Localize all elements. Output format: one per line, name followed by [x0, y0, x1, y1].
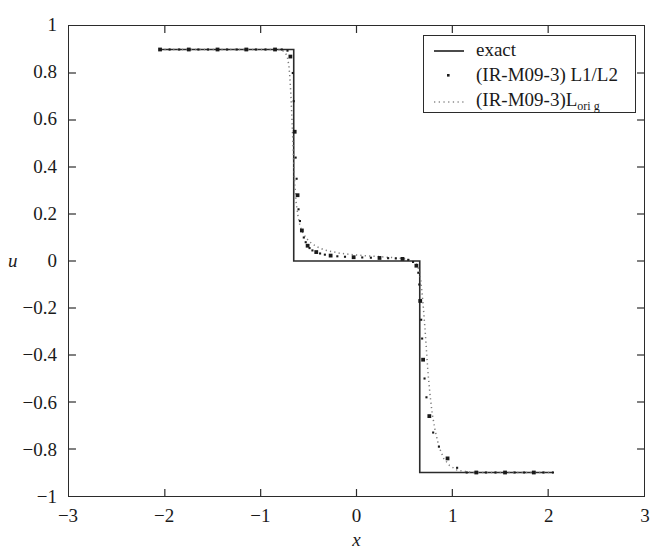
dot-marker-sample-icon [431, 62, 473, 88]
data-point-marker [281, 48, 283, 50]
x-tick-label: 3 [615, 506, 667, 525]
data-point-marker [552, 471, 554, 473]
data-point-marker [474, 471, 478, 475]
data-point-marker [292, 72, 294, 74]
data-point-marker [542, 471, 544, 473]
data-point-marker [169, 48, 171, 50]
legend-label-lorig-base: (IR-M09-3)L [476, 89, 577, 110]
data-point-marker [432, 432, 434, 434]
legend-entry-lorig: (IR-M09-3)Lori g [424, 87, 635, 113]
data-point-marker [361, 256, 363, 258]
data-point-marker [532, 471, 536, 475]
data-point-marker [421, 338, 423, 340]
data-point-marker [207, 48, 209, 50]
data-point-marker [414, 264, 418, 268]
y-tick-label: −0.6 [0, 393, 57, 412]
x-tick-label: 0 [327, 506, 387, 525]
x-tick-label: −3 [38, 506, 98, 525]
legend-entry-exact: exact [424, 37, 635, 63]
data-point-marker [305, 241, 307, 243]
x-tick-label: −2 [134, 506, 194, 525]
data-point-marker [314, 250, 318, 254]
legend-label-l1l2: (IR-M09-3) L1/L2 [476, 62, 618, 88]
data-point-marker [236, 48, 238, 50]
legend-label-exact: exact [476, 37, 516, 63]
data-point-marker [438, 446, 440, 448]
dotted-line-sample-icon [431, 87, 473, 113]
data-point-marker [423, 377, 425, 379]
data-point-marker [387, 257, 389, 259]
data-point-marker [295, 157, 297, 159]
data-point-marker [421, 358, 425, 362]
data-point-marker [485, 471, 487, 473]
data-point-marker [296, 178, 298, 180]
data-point-marker [255, 48, 257, 50]
y-axis-title: u [8, 251, 18, 270]
solid-line-sample-icon [431, 37, 473, 63]
data-point-marker [425, 396, 427, 398]
data-point-marker [395, 257, 397, 259]
x-tick-label: 2 [519, 506, 579, 525]
data-point-marker [456, 467, 458, 469]
data-point-marker [427, 414, 431, 418]
data-point-marker [308, 247, 310, 249]
y-tick-label: 0.4 [0, 157, 57, 176]
y-tick-label: 1 [0, 15, 57, 34]
data-point-marker [319, 252, 321, 254]
data-point-marker [344, 256, 346, 258]
data-point-marker [329, 254, 333, 258]
x-tick-label: 1 [423, 506, 483, 525]
data-point-marker [296, 193, 300, 197]
data-point-marker [288, 55, 292, 59]
figure: −1−0.8−0.6−0.4−0.200.20.40.60.81 −3−2−10… [0, 0, 667, 555]
data-point-marker [370, 257, 372, 259]
data-point-marker [494, 471, 496, 473]
data-point-marker [352, 255, 356, 259]
data-point-marker [286, 50, 288, 52]
data-point-marker [466, 471, 468, 473]
data-point-marker [418, 283, 420, 285]
data-point-marker [293, 130, 297, 134]
data-point-marker [178, 48, 180, 50]
data-point-marker [187, 48, 191, 52]
data-point-marker [297, 208, 299, 210]
data-point-marker [514, 471, 516, 473]
data-point-marker [446, 457, 450, 461]
legend-label-lorig: (IR-M09-3)Lori g [476, 87, 600, 113]
data-point-marker [417, 272, 419, 274]
data-point-marker [401, 257, 405, 261]
data-point-marker [158, 48, 162, 52]
data-point-marker [300, 229, 304, 233]
y-tick-label: 0.2 [0, 204, 57, 223]
data-point-marker [226, 48, 228, 50]
data-point-marker [412, 261, 414, 263]
data-point-marker [324, 254, 326, 256]
data-point-marker [311, 249, 313, 251]
y-tick-label: −0.2 [0, 298, 57, 317]
x-axis-title: x [327, 530, 387, 549]
y-tick-label: −0.8 [0, 440, 57, 459]
y-tick-label: 0.6 [0, 109, 57, 128]
data-point-marker [418, 299, 422, 303]
x-tick-label: −1 [230, 506, 290, 525]
data-point-marker [336, 255, 338, 257]
data-point-marker [216, 48, 220, 52]
data-point-marker [273, 48, 277, 52]
data-point-marker [197, 48, 199, 50]
y-tick-label: −0.4 [0, 345, 57, 364]
data-point-marker [244, 48, 248, 52]
data-point-marker [303, 236, 305, 238]
legend-label-lorig-subscript: ori g [577, 99, 599, 113]
data-point-marker [293, 100, 295, 102]
data-point-marker [264, 48, 266, 50]
data-point-marker [407, 259, 409, 261]
data-point-marker [420, 319, 422, 321]
data-point-marker [503, 471, 507, 475]
legend: exact (IR-M09-3) L1/L2 (IR-M09-3)Lori g [423, 35, 636, 113]
data-point-marker [299, 220, 301, 222]
data-point-marker [378, 256, 382, 260]
legend-entry-l1l2: (IR-M09-3) L1/L2 [424, 62, 635, 88]
data-point-marker [523, 471, 525, 473]
y-tick-label: 0.8 [0, 62, 57, 81]
y-tick-label: −1 [0, 487, 57, 506]
